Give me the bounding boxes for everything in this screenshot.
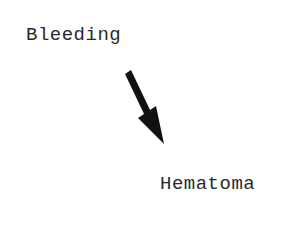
arrow-icon [0,0,304,230]
node-hematoma: Hematoma [160,175,255,194]
